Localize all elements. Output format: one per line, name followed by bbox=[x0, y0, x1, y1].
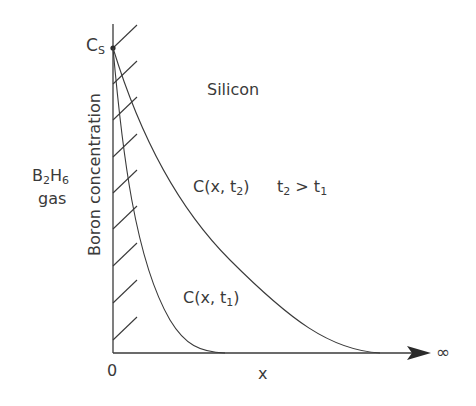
silicon-region-label: Silicon bbox=[207, 82, 259, 98]
curve-label-t2: C(x, t2) bbox=[193, 179, 250, 195]
y-axis-label: Boron concentration bbox=[85, 93, 104, 256]
x-infinity-label: ∞ bbox=[436, 344, 450, 361]
gas-region-label-line2: gas bbox=[38, 191, 66, 207]
surface-hatching bbox=[113, 25, 137, 340]
gas-region-label: B2H6 bbox=[32, 168, 69, 184]
x-origin-label: 0 bbox=[107, 363, 117, 379]
curve-label-t1: C(x, t1) bbox=[183, 290, 240, 306]
x-axis-label: x bbox=[258, 366, 267, 382]
diagram-canvas bbox=[0, 0, 476, 406]
surface-concentration-label: CS bbox=[86, 37, 105, 54]
time-condition-label: t2 > t1 bbox=[277, 179, 327, 195]
